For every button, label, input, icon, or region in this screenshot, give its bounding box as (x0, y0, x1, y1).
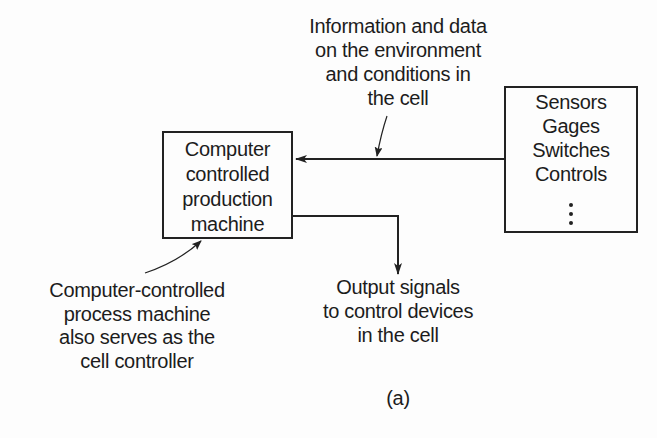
diagram-canvas: Information and data on the environment … (0, 0, 657, 438)
output-annotation-line: to control devices (298, 299, 498, 323)
machine-box-label: Computer controlled production machine (162, 137, 293, 237)
machine-annotation-line: cell controller (22, 350, 252, 374)
machine-annotation: Computer-controlled process machine also… (22, 279, 252, 373)
devices-box-line: Controls (504, 162, 638, 186)
machine-annotation-pointer (145, 241, 201, 273)
top-annotation-pointer (377, 116, 387, 156)
devices-box-line: Gages (504, 114, 638, 138)
machine-box-line: controlled (162, 162, 293, 187)
top-annotation: Information and data on the environment … (298, 14, 498, 110)
machine-box-line: machine (162, 212, 293, 237)
top-annotation-line: the cell (298, 86, 498, 110)
machine-annotation-line: Computer-controlled (22, 279, 252, 303)
machine-box-line: production (162, 187, 293, 212)
output-annotation-line: in the cell (298, 323, 498, 347)
output-annotation: Output signals to control devices in the… (298, 275, 498, 347)
devices-box-line: Switches (504, 138, 638, 162)
output-annotation-line: Output signals (298, 275, 498, 299)
machine-annotation-line: process machine (22, 303, 252, 327)
output-arrow (293, 216, 398, 274)
figure-caption: (a) (368, 386, 428, 410)
devices-box-line: Sensors (504, 90, 638, 114)
machine-box-line: Computer (162, 137, 293, 162)
devices-box-label: Sensors Gages Switches Controls (504, 90, 638, 186)
top-annotation-line: Information and data (298, 14, 498, 38)
machine-annotation-line: also serves as the (22, 326, 252, 350)
top-annotation-line: on the environment (298, 38, 498, 62)
top-annotation-line: and conditions in (298, 62, 498, 86)
